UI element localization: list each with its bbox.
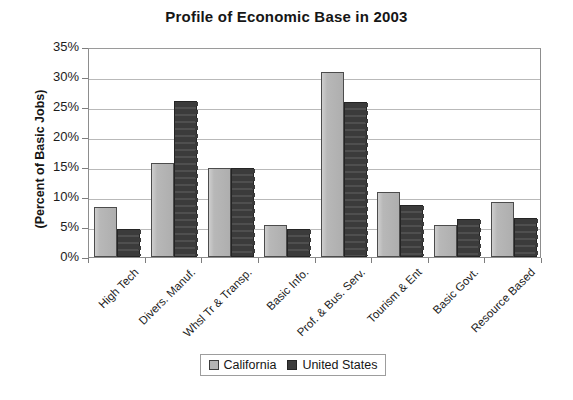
bar-california xyxy=(491,202,514,257)
legend-label: California xyxy=(224,358,277,372)
bar-united-states xyxy=(231,168,254,257)
y-tick-label: 30% xyxy=(27,69,79,84)
x-tick-mark xyxy=(371,258,372,263)
bar-california xyxy=(208,168,231,257)
bar-group xyxy=(208,49,254,257)
x-tick-mark xyxy=(201,258,202,263)
x-tick-mark xyxy=(541,258,542,263)
bar-group xyxy=(264,49,310,257)
y-tick-label: 0% xyxy=(27,249,79,264)
y-tick-label: 25% xyxy=(27,99,79,114)
bar-california xyxy=(151,163,174,257)
bar-group xyxy=(94,49,140,257)
bar-group xyxy=(434,49,480,257)
bar-california xyxy=(264,225,287,257)
x-tick-mark xyxy=(428,258,429,263)
bar-united-states xyxy=(117,229,140,257)
bar-united-states xyxy=(344,102,367,257)
plot-area xyxy=(88,48,541,258)
bar-california xyxy=(321,72,344,257)
x-tick-mark xyxy=(315,258,316,263)
bar-united-states xyxy=(174,101,197,257)
bar-group xyxy=(151,49,197,257)
x-tick-mark xyxy=(88,258,89,263)
bar-united-states xyxy=(287,229,310,257)
light-gray-swatch-icon xyxy=(209,360,219,370)
x-category-label: Whsl Tr & Transp. xyxy=(72,266,254,400)
legend-entry: California xyxy=(209,358,277,372)
bar-united-states xyxy=(514,218,537,257)
dark-gray-swatch-icon xyxy=(287,360,297,370)
bar-united-states xyxy=(457,219,480,257)
legend-label: United States xyxy=(302,358,377,372)
legend-entry: United States xyxy=(287,358,377,372)
bar-california xyxy=(377,192,400,257)
bar-group xyxy=(377,49,423,257)
y-tick-label: 35% xyxy=(27,39,79,54)
chart-legend: CaliforniaUnited States xyxy=(200,354,386,376)
y-tick-label: 15% xyxy=(27,159,79,174)
x-category-label: High Tech xyxy=(39,266,141,368)
y-tick-label: 5% xyxy=(27,219,79,234)
y-tick-label: 10% xyxy=(27,189,79,204)
bar-california xyxy=(434,225,457,257)
bar-united-states xyxy=(400,205,423,257)
x-tick-mark xyxy=(258,258,259,263)
bar-group xyxy=(321,49,367,257)
bar-california xyxy=(94,207,117,257)
chart-title: Profile of Economic Base in 2003 xyxy=(0,8,573,25)
x-tick-mark xyxy=(145,258,146,263)
economic-base-bar-chart: Profile of Economic Base in 2003 (Percen… xyxy=(0,0,573,400)
y-tick-label: 20% xyxy=(27,129,79,144)
x-tick-mark xyxy=(484,258,485,263)
bar-group xyxy=(491,49,537,257)
